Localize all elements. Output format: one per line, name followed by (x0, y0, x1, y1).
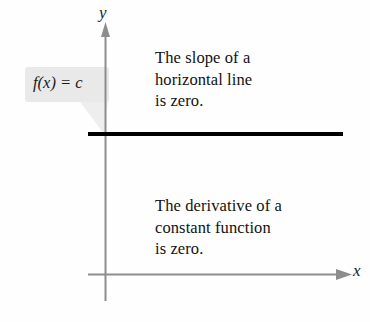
callout-label: f(x) = c (33, 75, 83, 92)
x-axis-label: x (353, 262, 361, 279)
annotation-bottom: The derivative of a constant function is… (155, 195, 282, 260)
x-axis-arrowhead-icon (336, 269, 352, 280)
annotation-top: The slope of a horizontal line is zero. (155, 47, 252, 112)
annotation-top-line-3: is zero. (155, 90, 252, 112)
annotation-bottom-line-1: The derivative of a (155, 195, 282, 217)
callout-tail (78, 99, 108, 134)
annotation-top-line-2: horizontal line (155, 69, 252, 91)
annotation-bottom-line-3: is zero. (155, 238, 282, 260)
annotation-top-line-1: The slope of a (155, 47, 252, 69)
constant-function-derivative-figure: y x f(x) = c The slope of a horizontal l… (0, 0, 370, 322)
y-axis-arrowhead-icon (101, 22, 110, 37)
annotation-bottom-line-2: constant function (155, 217, 282, 239)
y-axis-label: y (99, 4, 107, 21)
